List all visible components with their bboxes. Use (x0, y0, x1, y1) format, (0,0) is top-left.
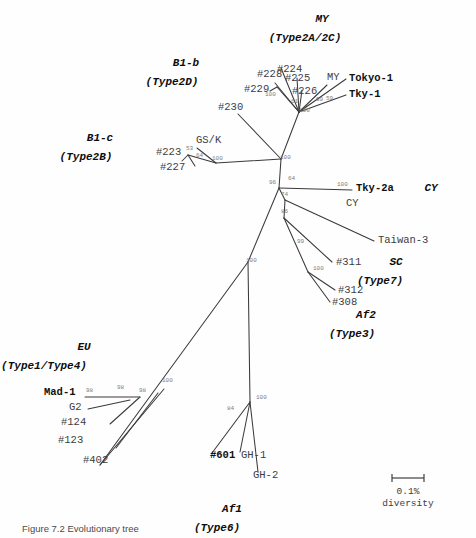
bootstrap-value: 74 (281, 191, 289, 198)
branch-sc-node-stem (284, 218, 308, 272)
phylogenetic-tree-figure: 1006110099595364100100966474100869910010… (0, 0, 476, 538)
taxon-label: #402 (83, 454, 108, 466)
group-label: EU (77, 341, 91, 353)
bootstrap-value: 98 (139, 387, 147, 394)
branch-cy-branch (279, 188, 352, 190)
group-label: MY (314, 13, 330, 25)
branch-center-a-b (279, 159, 281, 188)
taxon-label: #225 (285, 72, 310, 84)
taxon-label: #228 (257, 68, 282, 80)
branch-taiwan3-branch (285, 200, 374, 241)
taxon-label: Mad-1 (44, 386, 76, 398)
figure-caption: Figure 7.2 Evolutionary tree (0, 520, 476, 538)
group-label: Af1 (221, 503, 242, 515)
bootstrap-value: 86 (281, 208, 289, 215)
taxon-label: #230 (218, 101, 243, 113)
branch-af1-node-gh2 (250, 402, 258, 472)
group-subtitle: (Type2A/2C) (269, 32, 342, 44)
group-subtitle: (Type7) (357, 275, 403, 287)
caption-canvas: Figure 7.2 Evolutionary tree (0, 520, 476, 538)
taxon-label: Tky-1 (349, 88, 381, 100)
bootstrap-value: 99 (297, 238, 305, 245)
taxon-label: GH-2 (253, 469, 278, 481)
group-label: B1-b (173, 57, 200, 69)
bootstrap-value: 100 (337, 181, 348, 188)
group-subtitle: (Type3) (329, 328, 375, 340)
taxon-label: #601 (210, 449, 235, 461)
group-subtitle: (Type1/Type4) (1, 360, 87, 372)
group-label: B1-c (87, 132, 114, 144)
bootstrap-value: 84 (227, 405, 235, 412)
branch-sc-node-308 (308, 272, 330, 302)
taxon-label: Taiwan-3 (378, 234, 428, 246)
bootstrap-value: 53 (186, 145, 194, 152)
branch-eu-node-g2 (88, 400, 130, 409)
bootstrap-value: 96 (269, 179, 277, 186)
taxon-label: GS/K (196, 134, 222, 146)
group-label: CY (424, 182, 439, 194)
taxon-label: #123 (58, 434, 83, 446)
bootstrap-value: 61 (291, 98, 299, 105)
group-subtitle: (Type2D) (146, 76, 199, 88)
scale-bar: 0.1%diversity (382, 474, 434, 509)
bootstrap-value: 98 (117, 384, 125, 391)
bootstrap-value: 100 (246, 257, 257, 264)
bootstrap-value: 99 (316, 96, 324, 103)
taxon-label: #227 (160, 161, 185, 173)
scale-bar-unit: diversity (382, 498, 434, 509)
bootstrap-value: 98 (86, 387, 94, 394)
taxon-label: #226 (292, 85, 317, 97)
group-subtitle: (Type2B) (60, 151, 113, 163)
taxon-label: Tokyo-1 (349, 72, 393, 84)
bootstrap-value: 64 (288, 175, 296, 182)
taxon-labels-layer: #224#228#229#225#226MYTokyo-1Tky-1#230GS… (44, 63, 428, 481)
tree-canvas: 1006110099595364100100966474100869910010… (0, 0, 476, 538)
taxon-label: MY (327, 71, 340, 83)
group-label: Af2 (355, 309, 376, 321)
scale-bar-value: 0.1% (397, 486, 420, 497)
branch-my-stem (281, 112, 299, 159)
bootstrap-value: 100 (280, 154, 291, 161)
branch-trunk-upper (248, 188, 279, 262)
caption-text: Figure 7.2 Evolutionary tree (22, 523, 139, 534)
taxon-label: G2 (69, 401, 82, 413)
branch-trunk-af1 (248, 262, 250, 402)
branch-sc-node-311 (284, 218, 332, 262)
taxon-label: #223 (156, 146, 181, 158)
bootstrap-value: 59 (326, 95, 334, 102)
bootstrap-value: 100 (313, 265, 324, 272)
bootstrap-value: 64 (196, 152, 204, 159)
bootstrap-value: 100 (299, 107, 310, 114)
taxon-label: #229 (244, 83, 269, 95)
bootstrap-value: 100 (212, 155, 223, 162)
taxon-label: #311 (336, 256, 361, 268)
branch-sc-node-312 (308, 272, 335, 290)
branch-b1b-230 (238, 114, 281, 159)
bootstrap-value: 100 (256, 394, 267, 401)
bootstrap-value: 100 (162, 377, 173, 384)
taxon-label: CY (346, 197, 359, 209)
taxon-label: GH-1 (241, 449, 266, 461)
group-label: SC (389, 256, 403, 268)
taxon-label: Tky-2a (356, 182, 395, 194)
branch-b1c-stem (216, 159, 281, 163)
taxon-label: #308 (332, 296, 357, 308)
taxon-label: #124 (61, 416, 86, 428)
